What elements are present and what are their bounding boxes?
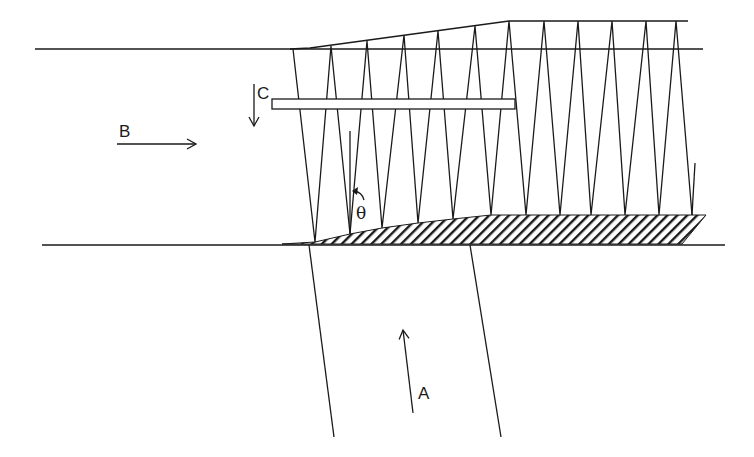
hatched-deposit-wedge: [282, 215, 706, 244]
label-a: A: [418, 384, 430, 403]
arrow-a: [399, 330, 413, 413]
channel-left-wall: [309, 245, 334, 437]
upper-sloped-boundary: [290, 21, 688, 49]
zigzag-structure: [293, 21, 692, 242]
horizontal-bar: [272, 99, 515, 109]
arrow-a-shaft: [403, 330, 413, 413]
channel-right-wall: [470, 245, 501, 437]
label-c: C: [257, 84, 269, 103]
zigzag-end-stub: [692, 163, 695, 215]
flow-diagram: A B C θ: [0, 0, 754, 457]
label-theta: θ: [356, 203, 366, 223]
label-b: B: [119, 122, 130, 141]
